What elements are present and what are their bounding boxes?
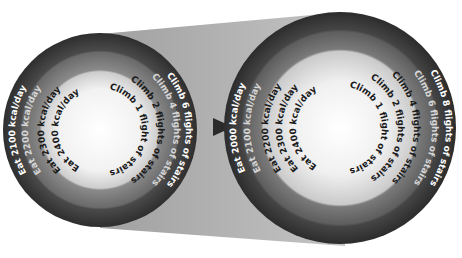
right-circle: Eat 2000 kcal/day Eat 2100 kcal/day Eat … bbox=[224, 12, 456, 244]
diagram-canvas: Eat 2100 kcal/day Eat 2200 kcal/day Eat … bbox=[0, 0, 462, 258]
left-circle: Eat 2100 kcal/day Eat 2200 kcal/day Eat … bbox=[3, 33, 197, 227]
